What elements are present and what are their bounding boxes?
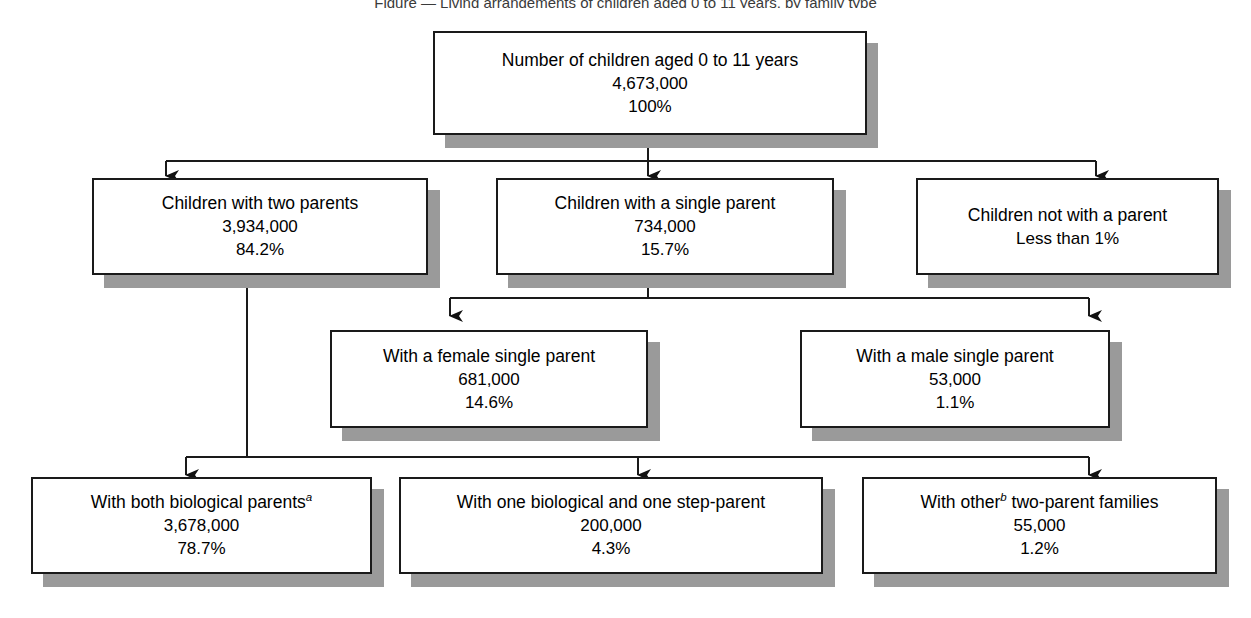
node-root-percent: 100% — [628, 95, 671, 118]
node-both-biological-count: 3,678,000 — [164, 514, 240, 537]
node-male-single-parent[interactable]: With a male single parent 53,000 1.1% — [800, 330, 1110, 428]
node-one-biological-one-step[interactable]: With one biological and one step-parent … — [399, 477, 823, 574]
node-female-single-parent[interactable]: With a female single parent 681,000 14.6… — [330, 330, 648, 428]
node-no-parent-count: Less than 1% — [1016, 227, 1119, 250]
node-two-parents-count: 3,934,000 — [222, 215, 298, 238]
node-other-two-parent-count: 55,000 — [1014, 514, 1066, 537]
node-female-single-percent: 14.6% — [465, 391, 513, 414]
node-single-parent-percent: 15.7% — [641, 238, 689, 261]
node-single-parent-count: 734,000 — [634, 215, 695, 238]
node-female-single-count: 681,000 — [458, 368, 519, 391]
node-male-single-count: 53,000 — [929, 368, 981, 391]
figure-caption-text: Figure — Living arrangements of children… — [0, 0, 1251, 8]
node-one-bio-one-step-count: 200,000 — [580, 514, 641, 537]
node-other-two-parent-percent: 1.2% — [1020, 537, 1059, 560]
node-root-title: Number of children aged 0 to 11 years — [502, 49, 798, 72]
node-both-biological-percent: 78.7% — [177, 537, 225, 560]
node-female-single-title: With a female single parent — [383, 345, 595, 368]
node-two-parents-percent: 84.2% — [236, 238, 284, 261]
node-root[interactable]: Number of children aged 0 to 11 years 4,… — [433, 31, 867, 135]
node-one-bio-one-step-percent: 4.3% — [592, 537, 631, 560]
node-two-parents-title: Children with two parents — [162, 192, 358, 215]
node-no-parent[interactable]: Children not with a parent Less than 1% — [916, 178, 1219, 275]
node-both-biological-title: With both biological parentsa — [91, 491, 312, 514]
node-single-parent-title: Children with a single parent — [555, 192, 776, 215]
figure-caption-cropped: Figure — Living arrangements of children… — [0, 0, 1251, 8]
node-single-parent[interactable]: Children with a single parent 734,000 15… — [496, 178, 834, 275]
node-male-single-percent: 1.1% — [936, 391, 975, 414]
node-other-two-parent-families[interactable]: With otherb two-parent families 55,000 1… — [862, 477, 1217, 574]
node-root-count: 4,673,000 — [612, 72, 688, 95]
node-no-parent-title: Children not with a parent — [968, 204, 1167, 227]
node-both-biological-parents[interactable]: With both biological parentsa 3,678,000 … — [31, 477, 372, 574]
node-other-two-parent-title: With otherb two-parent families — [921, 491, 1159, 514]
footnote-marker-a: a — [306, 491, 312, 503]
node-two-parents[interactable]: Children with two parents 3,934,000 84.2… — [92, 178, 428, 275]
node-male-single-title: With a male single parent — [856, 345, 1053, 368]
flowchart-canvas: Figure — Living arrangements of children… — [0, 0, 1251, 618]
node-one-bio-one-step-title: With one biological and one step-parent — [457, 491, 765, 514]
